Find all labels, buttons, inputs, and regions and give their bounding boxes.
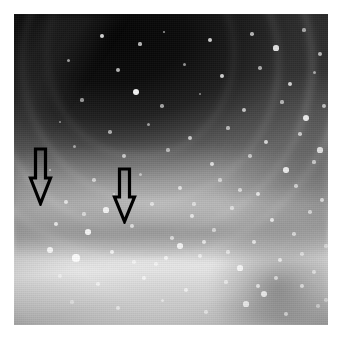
vignette-layer xyxy=(14,14,328,325)
endoscopic-figure xyxy=(0,0,341,340)
endoscopic-photo xyxy=(14,14,328,325)
